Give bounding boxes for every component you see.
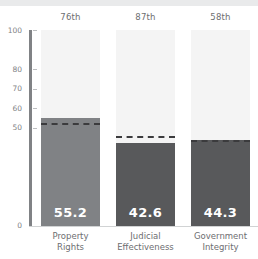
category-label-line-2: Effectiveness	[108, 242, 183, 253]
bar-government-integrity[interactable]: 44.3	[191, 140, 250, 227]
bar-value-government-integrity: 44.3	[191, 205, 250, 220]
category-label-line-2: Integrity	[183, 242, 258, 253]
rule-of-law-bar-chart: 76th 87th 58th 100 80 70 60 50 0 55.2	[0, 0, 258, 259]
y-tick-label-100: 100	[0, 27, 22, 35]
reference-line-government-integrity	[191, 140, 250, 142]
y-tick-label-80: 80	[0, 66, 22, 74]
column-property-rights: 55.2	[33, 30, 108, 227]
bar-property-rights[interactable]: 55.2	[41, 118, 100, 227]
y-tick-label-50: 50	[0, 124, 22, 132]
bar-value-judicial-effectiveness: 42.6	[116, 205, 175, 220]
category-label-line-1: Judicial	[108, 231, 183, 242]
column-government-integrity: 44.3	[183, 30, 258, 227]
y-axis-spine	[29, 30, 32, 227]
bar-value-property-rights: 55.2	[41, 205, 100, 220]
category-label-line-1: Property	[33, 231, 108, 242]
category-label-judicial-effectiveness: Judicial Effectiveness	[108, 231, 183, 257]
category-labels-row: Property Rights Judicial Effectiveness G…	[33, 231, 258, 257]
category-label-line-2: Rights	[33, 242, 108, 253]
x-axis-baseline	[29, 226, 258, 227]
category-label-government-integrity: Government Integrity	[183, 231, 258, 257]
bar-judicial-effectiveness[interactable]: 42.6	[116, 143, 175, 227]
y-tick-label-0: 0	[0, 222, 22, 230]
plot-area: 100 80 70 60 50 0 55.2 42.6	[0, 0, 258, 259]
column-judicial-effectiveness: 42.6	[108, 30, 183, 227]
reference-line-property-rights	[41, 123, 100, 125]
category-label-property-rights: Property Rights	[33, 231, 108, 257]
category-label-line-1: Government	[183, 231, 258, 242]
y-tick-label-70: 70	[0, 85, 22, 93]
bar-columns: 55.2 42.6 44.3	[33, 30, 258, 227]
reference-line-judicial-effectiveness	[116, 136, 175, 138]
y-tick-label-60: 60	[0, 105, 22, 113]
